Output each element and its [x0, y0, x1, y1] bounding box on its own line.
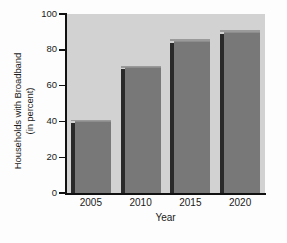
- figure: Households with Broadband (in percent) 0…: [0, 0, 287, 243]
- y-tick-label: 60: [46, 79, 57, 90]
- y-tick-mark: [59, 85, 66, 86]
- y-tick-mark: [59, 13, 66, 14]
- x-tick-label: 2010: [116, 197, 166, 208]
- bar-face: [75, 122, 111, 193]
- bar: [71, 120, 111, 193]
- bar-face: [224, 33, 260, 193]
- y-tick-mark: [59, 192, 66, 193]
- y-axis-label-line2: (in percent): [24, 26, 36, 196]
- y-tick-mark: [59, 121, 66, 122]
- x-tick-label: 2005: [66, 197, 116, 208]
- y-tick-label: 100: [41, 8, 57, 19]
- y-tick-mark: [59, 49, 66, 50]
- bar: [121, 66, 161, 193]
- y-tick-label: 0: [52, 187, 57, 198]
- y-tick-mark: [59, 157, 66, 158]
- bar: [170, 39, 210, 193]
- y-tick-label: 40: [46, 115, 57, 126]
- figure-caption: [4, 232, 287, 243]
- x-axis-line: [65, 193, 266, 195]
- y-tick-label: 80: [46, 43, 57, 54]
- x-tick-label: 2015: [165, 197, 215, 208]
- x-tick-label: 2020: [215, 197, 265, 208]
- y-tick-label: 20: [46, 151, 57, 162]
- bar-face: [125, 68, 161, 193]
- y-axis-line: [65, 13, 67, 194]
- x-axis-label: Year: [66, 212, 265, 223]
- bar-face: [174, 42, 210, 193]
- y-axis-label-line1: Households with Broadband: [12, 53, 23, 169]
- y-axis-label: Households with Broadband (in percent): [12, 26, 42, 196]
- bar: [220, 30, 260, 193]
